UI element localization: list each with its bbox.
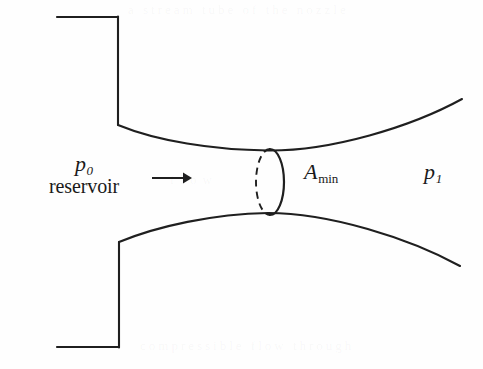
reservoir-pressure-symbol-line: p0 [32, 152, 136, 177]
exit-pressure-label: p1 [424, 160, 442, 185]
flow-direction-arrow [152, 173, 192, 184]
throat-area-symbol: A [304, 159, 318, 184]
reservoir-pressure-symbol: p [75, 151, 86, 176]
lower-wall-curve [119, 213, 460, 266]
reservoir-word-label: reservoir [32, 176, 136, 197]
throat-area-ellipse-front-solid [270, 149, 284, 215]
exit-pressure-symbol: p [424, 159, 435, 184]
exit-pressure-subscript: 1 [436, 171, 443, 186]
upper-wall-curve [118, 99, 462, 151]
throat-area-subscript: min [318, 171, 338, 186]
reservoir-pressure-label: p0 reservoir [32, 152, 136, 197]
nozzle-throat-figure: a stream tube of the nozzle flow compres… [0, 0, 483, 369]
throat-area-label: Amin [304, 160, 338, 185]
throat-area-ellipse-back-dashed [256, 149, 270, 215]
